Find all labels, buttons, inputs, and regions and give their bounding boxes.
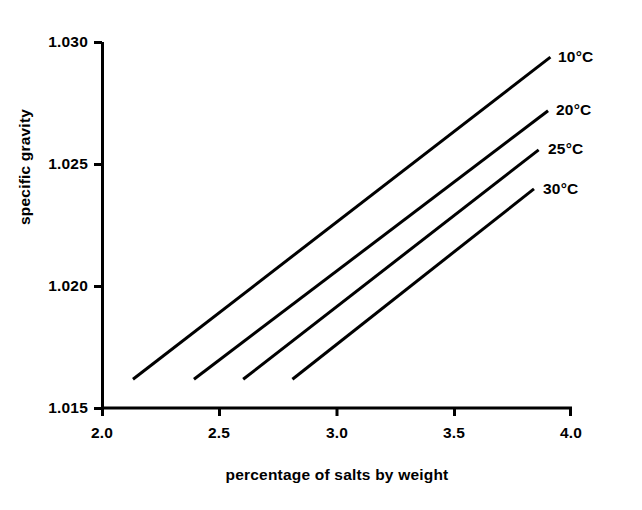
y-axis-title: specific gravity bbox=[16, 109, 34, 225]
y-tick-label-1025: 1.025 bbox=[28, 155, 88, 173]
x-tick-label-35: 3.5 bbox=[443, 424, 465, 442]
series-label-30c: 30°C bbox=[543, 180, 578, 198]
series-line-30c bbox=[292, 189, 534, 379]
y-tick-label-1020: 1.020 bbox=[28, 277, 88, 295]
series-line-20c bbox=[194, 111, 548, 379]
x-tick-label-30: 3.0 bbox=[326, 424, 348, 442]
series-line-10c bbox=[133, 57, 550, 379]
chart-container: 1.030 1.025 1.020 1.015 2.0 2.5 3.0 3.5 … bbox=[0, 0, 642, 510]
x-tick-label-40: 4.0 bbox=[560, 424, 582, 442]
series-label-20c: 20°C bbox=[556, 101, 591, 119]
series-label-25c: 25°C bbox=[548, 140, 583, 158]
series-label-10c: 10°C bbox=[558, 48, 593, 66]
y-tick-label-1015: 1.015 bbox=[28, 399, 88, 417]
x-tick-label-20: 2.0 bbox=[91, 424, 113, 442]
x-axis-title: percentage of salts by weight bbox=[226, 466, 449, 484]
series-line-25c bbox=[243, 150, 538, 379]
x-tick-label-25: 2.5 bbox=[208, 424, 230, 442]
series-lines-group bbox=[133, 57, 550, 379]
y-tick-label-1030: 1.030 bbox=[28, 33, 88, 51]
